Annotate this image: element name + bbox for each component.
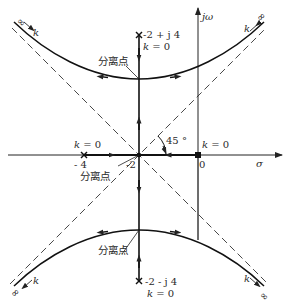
k-label-se: k xyxy=(244,273,250,284)
angle-label: 45 ° xyxy=(166,135,187,146)
inf-label-nw: ∞ xyxy=(15,15,28,29)
pole-minus4-gain: k = 0 xyxy=(74,139,101,150)
real-axis-label: σ xyxy=(256,158,264,169)
pole-origin-marker xyxy=(195,152,201,158)
k-label-nw: k xyxy=(33,27,39,38)
origin-label: 0 xyxy=(199,159,205,170)
pole-origin-gain: k = 0 xyxy=(202,139,229,150)
imag-axis-label: jω xyxy=(200,11,213,22)
pole-top-label: -2 + j 4 xyxy=(143,29,180,40)
pole-bottom-gain: k = 0 xyxy=(147,288,174,299)
pole-minus4-label: - 4 xyxy=(74,159,87,170)
breakaway-label-bottom: 分离点 xyxy=(98,244,128,256)
inf-label-sw: ∞ xyxy=(8,286,21,300)
inf-label-se: ∞ xyxy=(258,289,271,303)
inf-label-ne: ∞ xyxy=(254,10,267,24)
centroid-label: -2 xyxy=(126,159,136,170)
breakaway-leader-top xyxy=(126,66,139,79)
k-label-ne: k xyxy=(244,23,250,34)
angle-arc xyxy=(158,136,166,155)
breakaway-label-mid: 分离点 xyxy=(80,170,110,182)
pole-top-gain: k = 0 xyxy=(143,41,170,52)
breakaway-label-top: 分离点 xyxy=(98,55,128,67)
root-locus-diagram: jω σ 0 -2 + j 4 k = 0 -2 - j 4 k = 0 k =… xyxy=(0,0,289,308)
k-label-sw: k xyxy=(33,275,39,286)
pole-bottom-label: -2 - j 4 xyxy=(145,276,177,287)
